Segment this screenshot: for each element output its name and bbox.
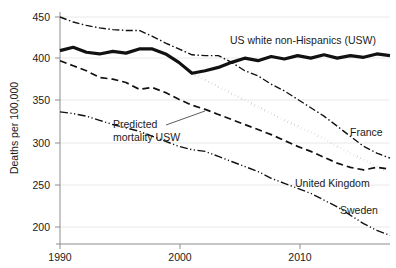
series-label-usw: US white non-Hispanics (USW) [230,34,376,46]
annotation-line-1: Predicted [113,118,158,130]
y-tick-label-400: 400 [32,52,50,64]
annotation-line-2: mortality USW [113,131,180,143]
x-tick-label-1990: 1990 [48,251,72,263]
y-tick-label-300: 300 [32,137,50,149]
y-axis-title: Deaths per 100,000 [8,82,20,174]
mortality-line-chart: 450 400 350 300 250 200 1990 2000 2010 D… [0,0,396,268]
y-tick-label-250: 250 [32,179,50,191]
x-tick-label-2000: 2000 [168,251,192,263]
chart-svg: 450 400 350 300 250 200 1990 2000 2010 D… [0,0,396,268]
x-tick-label-2010: 2010 [288,251,312,263]
series-label-united-kingdom: United Kingdom [295,177,370,189]
series-label-france: France [350,126,383,138]
y-tick-label-350: 350 [32,94,50,106]
series-label-sweden: Sweden [340,204,378,216]
y-tick-label-450: 450 [32,11,50,23]
y-tick-label-200: 200 [32,221,50,233]
